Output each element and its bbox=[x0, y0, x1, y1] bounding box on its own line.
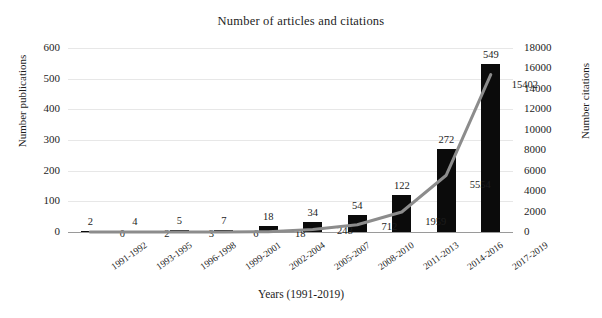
y-axis-right-tick-label: 18000 bbox=[524, 42, 568, 53]
y-axis-left-tick-label: 500 bbox=[16, 73, 60, 84]
x-axis-tick-label: 2017-2019 bbox=[510, 240, 549, 272]
chart-figure: Number of articles and citations Number … bbox=[0, 0, 602, 318]
x-axis-title: Years (1991-2019) bbox=[0, 288, 602, 300]
y-axis-left-tick-label: 0 bbox=[16, 226, 60, 237]
x-axis-tick-label: 2008-2010 bbox=[377, 240, 416, 272]
y-axis-right-tick-label: 8000 bbox=[524, 144, 568, 155]
gridline bbox=[68, 48, 513, 49]
line-value-label: 15402 bbox=[495, 79, 555, 90]
gridline bbox=[68, 79, 513, 80]
y-axis-left-tick-label: 100 bbox=[16, 195, 60, 206]
y-axis-right-tick-label: 16000 bbox=[524, 62, 568, 73]
y-axis-right-tick-label: 0 bbox=[524, 226, 568, 237]
y-axis-left-title: Number publications bbox=[16, 36, 28, 166]
y-axis-right-tick-label: 4000 bbox=[524, 185, 568, 196]
y-axis-left-tick-label: 200 bbox=[16, 165, 60, 176]
y-axis-left-tick-label: 300 bbox=[16, 134, 60, 145]
y-axis-left-tick-label: 600 bbox=[16, 42, 60, 53]
y-axis-left-tick-label: 400 bbox=[16, 103, 60, 114]
x-axis-tick-label: 1999-2001 bbox=[243, 240, 282, 272]
y-axis-right-tick-label: 12000 bbox=[524, 103, 568, 114]
x-axis-tick-label: 2005-2007 bbox=[332, 240, 371, 272]
bar-value-label: 272 bbox=[416, 134, 476, 145]
x-axis-tick-label: 2014-2016 bbox=[466, 240, 505, 272]
line-value-label: 5554 bbox=[450, 179, 510, 190]
bar-value-label: 549 bbox=[461, 49, 521, 60]
x-axis-tick-label: 2011-2013 bbox=[421, 240, 460, 272]
gridline bbox=[68, 109, 513, 110]
chart-title: Number of articles and citations bbox=[0, 14, 602, 29]
y-axis-right-title: Number citations bbox=[579, 36, 591, 166]
y-axis-right-tick-label: 2000 bbox=[524, 206, 568, 217]
bar-value-label: 54 bbox=[327, 200, 387, 211]
y-axis-right-tick-label: 6000 bbox=[524, 165, 568, 176]
y-axis-right-tick-label: 10000 bbox=[524, 124, 568, 135]
x-axis-tick-label: 1993-1995 bbox=[154, 240, 193, 272]
x-axis-tick-label: 2002-2004 bbox=[288, 240, 327, 272]
x-axis-tick-label: 1991-1992 bbox=[110, 240, 149, 272]
x-axis-tick-label: 1996-1998 bbox=[199, 240, 238, 272]
line-value-label: 1959 bbox=[406, 216, 466, 227]
bar-value-label: 122 bbox=[372, 180, 432, 191]
